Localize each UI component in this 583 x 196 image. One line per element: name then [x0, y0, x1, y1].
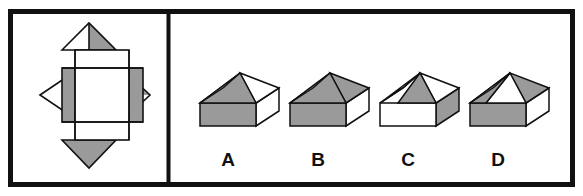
net-center-square — [75, 68, 129, 122]
option-c-box-front-face — [380, 103, 436, 126]
option-d-box-front-face — [470, 103, 526, 126]
option-a-box-front-face — [200, 103, 256, 126]
option-a-label: A — [221, 149, 235, 170]
spatial-reasoning-figure: A B C — [0, 0, 583, 196]
option-b-label: B — [311, 149, 325, 170]
option-c-label: C — [401, 149, 415, 170]
option-b-box-front-face — [290, 103, 346, 126]
figure-root: A B C — [0, 0, 583, 196]
option-d-label: D — [491, 149, 505, 170]
